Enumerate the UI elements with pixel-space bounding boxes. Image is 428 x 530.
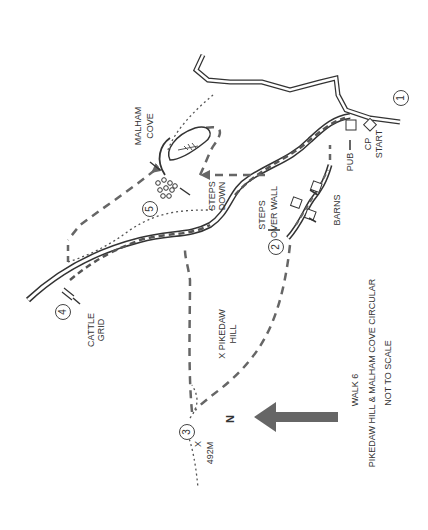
label-hill: HILL <box>228 324 238 343</box>
label-steps-over-1: STEPS <box>257 200 267 230</box>
woodland-icon <box>169 127 210 160</box>
label-steps-down-1: STEPS <box>207 181 217 211</box>
label-pikedaw: X PIKEDAW <box>217 309 227 359</box>
pub-icon <box>346 120 356 130</box>
label-summit-x: X <box>193 441 203 447</box>
label-summit-height: 492M <box>205 442 215 465</box>
label-cove: COVE <box>145 113 155 139</box>
label-barns: BARNS <box>332 194 342 225</box>
north-arrow-icon <box>254 402 338 432</box>
waypoint-4: 4 <box>55 304 71 320</box>
map-title: WALK 6 <box>350 374 360 407</box>
north-label: N <box>224 415 236 423</box>
label-cp: CP <box>363 138 373 151</box>
label-steps-down-2: DOWN <box>217 182 227 211</box>
waypoint-3: 3 <box>179 424 195 440</box>
label-steps-over-2: OVER WALL <box>269 186 279 238</box>
waypoint-1: 1 <box>393 90 409 106</box>
waypoint-2: 2 <box>268 239 284 255</box>
scale-note: NOT TO SCALE <box>383 340 393 406</box>
label-pub: PUB <box>345 153 355 172</box>
label-cattle: CATTLE <box>86 313 96 347</box>
label-start: START <box>374 130 384 159</box>
label-malham: MALHAM <box>133 107 143 146</box>
label-grid: GRID <box>96 319 106 342</box>
map-subtitle: PIKEDAW HILL & MALHAM COVE CIRCULAR <box>367 279 377 467</box>
waypoint-5: 5 <box>142 201 158 217</box>
